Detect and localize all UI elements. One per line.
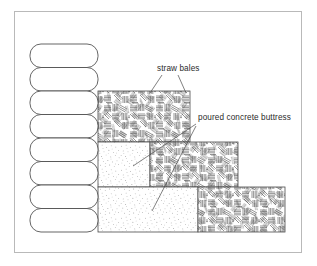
bale xyxy=(30,91,98,115)
step-bottom-concrete xyxy=(98,187,198,232)
bale-stack xyxy=(30,44,98,232)
label-straw-bales: straw bales xyxy=(157,64,200,73)
diagram-canvas xyxy=(0,0,317,266)
bale xyxy=(30,185,98,209)
leader-straw-bales-1 xyxy=(150,75,162,93)
bale xyxy=(30,115,98,139)
label-poured-concrete-buttress: poured concrete buttress xyxy=(198,113,291,122)
bale xyxy=(30,138,98,162)
bale xyxy=(30,162,98,186)
step-middle-straw xyxy=(150,142,238,187)
diagram-page: straw bales poured concrete buttress xyxy=(0,0,317,266)
step-bottom-straw xyxy=(198,187,285,232)
step-middle-concrete xyxy=(98,142,150,187)
bale xyxy=(30,209,98,233)
leader-straw-bales-2 xyxy=(178,75,186,93)
step-top xyxy=(98,91,190,142)
bale xyxy=(30,68,98,92)
bale xyxy=(30,44,98,68)
